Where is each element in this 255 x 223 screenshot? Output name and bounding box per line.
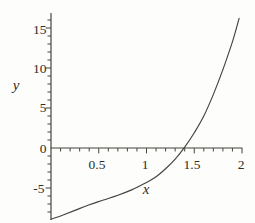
y-axis-label: y	[11, 77, 20, 93]
y-tick-label: 15	[33, 22, 47, 37]
x-tick-label: 0.5	[89, 157, 106, 172]
x-axis-ticks	[61, 149, 242, 154]
plot-canvas: 15 10 5 0 -5 0.5 1 1.5 2 y x	[0, 0, 255, 223]
x-tick-label: 2	[238, 157, 245, 172]
axis-labels: 15 10 5 0 -5 0.5 1 1.5 2 y x	[11, 22, 245, 198]
y-tick-label: 10	[33, 61, 47, 76]
x-tick-label: 1	[142, 157, 149, 172]
x-tick-label: 1.5	[184, 157, 201, 172]
y-axis-ticks	[46, 20, 51, 212]
plot-figure: 15 10 5 0 -5 0.5 1 1.5 2 y x	[0, 0, 255, 223]
x-axis-label: x	[142, 181, 150, 197]
y-tick-label: 0	[40, 141, 47, 156]
y-tick-label: 5	[40, 100, 47, 115]
y-tick-label: -5	[33, 181, 44, 196]
